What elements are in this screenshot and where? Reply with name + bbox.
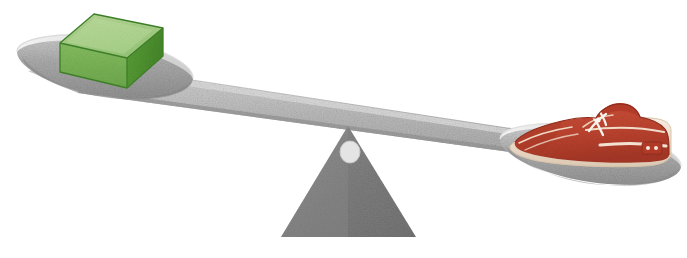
- balance-scale-illustration: A grey balance scale tipped to the left.…: [0, 0, 687, 258]
- red-shoe: [510, 103, 671, 167]
- shoe-heel-tab: [642, 142, 662, 154]
- fulcrum-left-shade: [281, 126, 348, 237]
- scale-canvas: [0, 0, 687, 258]
